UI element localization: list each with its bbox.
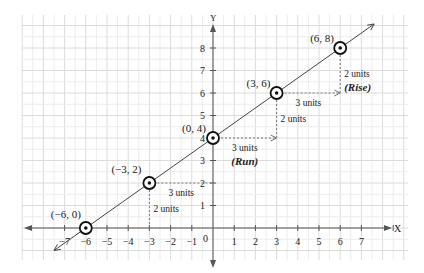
svg-text:3 units: 3 units	[296, 98, 322, 108]
svg-text:(0, 4): (0, 4)	[182, 122, 206, 135]
svg-text:1: 1	[200, 200, 205, 211]
svg-text:7: 7	[200, 65, 205, 76]
svg-text:4: 4	[200, 133, 205, 144]
svg-text:Y: Y	[210, 13, 217, 23]
slope-chart: XY −7−6−5−4−3−2−11234567123456780 3 unit…	[0, 0, 424, 273]
svg-text:1: 1	[232, 236, 237, 247]
svg-text:(−3, 2): (−3, 2)	[111, 163, 141, 176]
svg-text:(Run): (Run)	[231, 155, 258, 168]
svg-text:(6, 8): (6, 8)	[310, 32, 334, 45]
svg-text:5: 5	[200, 110, 205, 121]
svg-text:6: 6	[200, 88, 205, 99]
svg-text:7: 7	[359, 236, 364, 247]
svg-text:−2: −2	[165, 236, 176, 247]
svg-text:2: 2	[253, 236, 258, 247]
svg-text:3: 3	[200, 155, 205, 166]
svg-text:2 units: 2 units	[344, 69, 370, 79]
svg-text:−1: −1	[186, 236, 197, 247]
svg-text:3 units: 3 units	[232, 143, 258, 153]
svg-text:−4: −4	[123, 236, 134, 247]
svg-text:(3, 6): (3, 6)	[247, 77, 271, 90]
svg-text:2 units: 2 units	[281, 114, 307, 124]
svg-text:5: 5	[317, 236, 322, 247]
svg-text:3 units: 3 units	[168, 188, 194, 198]
svg-text:(−6, 0): (−6, 0)	[51, 208, 81, 221]
svg-text:2 units: 2 units	[153, 204, 179, 214]
svg-text:8: 8	[200, 43, 205, 54]
svg-text:−5: −5	[102, 236, 113, 247]
svg-text:X: X	[394, 223, 402, 234]
svg-text:−3: −3	[144, 236, 155, 247]
svg-text:3: 3	[274, 236, 279, 247]
svg-text:4: 4	[295, 236, 300, 247]
svg-text:(Rise): (Rise)	[344, 81, 371, 94]
svg-text:0: 0	[203, 233, 208, 244]
svg-text:6: 6	[338, 236, 343, 247]
svg-text:−6: −6	[80, 236, 91, 247]
